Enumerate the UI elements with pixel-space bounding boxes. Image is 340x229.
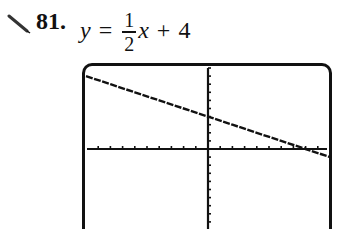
- equation: y = 1 2 x + 4: [80, 8, 190, 52]
- equals-sign: =: [99, 17, 113, 44]
- exercise-number: 81.: [36, 8, 66, 35]
- fraction-denominator: 2: [124, 34, 134, 54]
- calculator-screen: [82, 63, 332, 229]
- exercise-header: 81. y = 1 2 x + 4: [0, 0, 340, 60]
- fraction: 1 2: [122, 10, 136, 54]
- equation-variable: x: [138, 17, 149, 44]
- equation-lhs: y: [80, 17, 91, 44]
- equation-constant: 4: [178, 17, 190, 44]
- fraction-numerator: 1: [124, 10, 134, 30]
- graph-plot: [85, 66, 329, 229]
- pencil-icon: [6, 14, 32, 34]
- plus-sign: +: [157, 17, 171, 44]
